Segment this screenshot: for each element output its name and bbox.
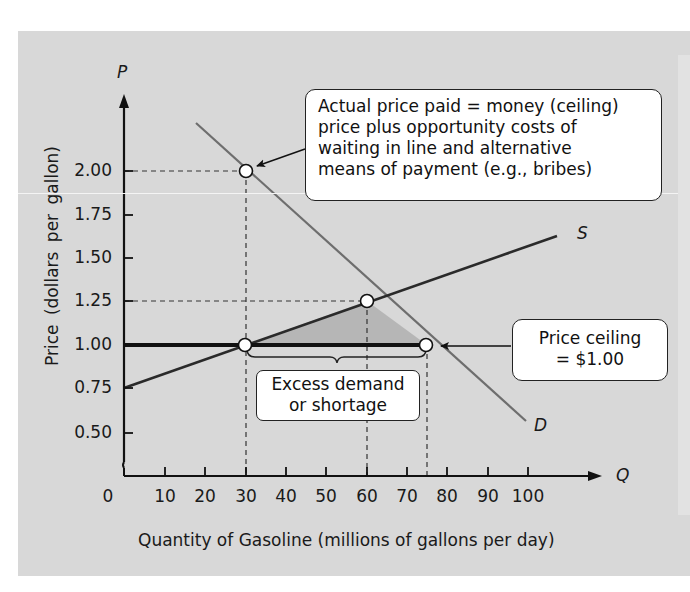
callout-line: price plus opportunity costs of — [318, 117, 661, 138]
callout-line: Price ceiling — [513, 328, 667, 349]
callout-line: Actual price paid = money (ceiling) — [318, 96, 661, 117]
y-axis-arrow-icon — [119, 94, 129, 108]
callout-line: or shortage — [257, 395, 419, 416]
actual-price-callout: Actual price paid = money (ceiling) pric… — [305, 89, 662, 201]
q-axis-label: Q — [616, 465, 629, 485]
x-tick-label: 20 — [185, 486, 225, 506]
x-tick-label: 90 — [468, 486, 508, 506]
shortage-callout: Excess demand or shortage — [256, 370, 420, 421]
x-axis-arrow-icon — [588, 471, 602, 481]
x-tick-label: 30 — [226, 486, 266, 506]
x-tick-label: 70 — [387, 486, 427, 506]
callout-line: Excess demand — [257, 374, 419, 395]
y-tick-label: 0.50 — [52, 422, 112, 442]
callout-line: means of payment (e.g., bribes) — [318, 159, 661, 180]
demand-label: D — [534, 415, 547, 435]
y-axis-title: Price (dollars per gallon) — [42, 146, 62, 366]
p-axis-label: P — [117, 62, 127, 82]
x-tick-label: 40 — [266, 486, 306, 506]
point-quantity-demanded — [420, 339, 433, 352]
supply-label: S — [577, 223, 588, 243]
y-ticks — [124, 171, 133, 433]
x-tick-label: 50 — [306, 486, 346, 506]
x-tick-label: 10 — [145, 486, 185, 506]
point-actual-price — [240, 165, 253, 178]
y-tick-label: 0.75 — [52, 377, 112, 397]
supply-curve — [124, 236, 557, 388]
callout-line: waiting in line and alternative — [318, 138, 661, 159]
x-axis-title: Quantity of Gasoline (millions of gallon… — [138, 530, 555, 550]
axis-break-icon — [123, 462, 124, 468]
shortage-brace — [247, 349, 426, 363]
price-ceiling-callout: Price ceiling = $1.00 — [512, 319, 668, 381]
point-quantity-supplied — [239, 339, 252, 352]
actual-price-arrow — [257, 149, 305, 166]
x-tick-label: 0 — [88, 486, 128, 506]
x-tick-label: 80 — [427, 486, 467, 506]
callout-line: = $1.00 — [513, 349, 667, 370]
x-tick-label: 60 — [347, 486, 387, 506]
x-ticks — [165, 467, 528, 476]
point-equilibrium — [361, 295, 374, 308]
x-tick-label: 100 — [508, 486, 548, 506]
